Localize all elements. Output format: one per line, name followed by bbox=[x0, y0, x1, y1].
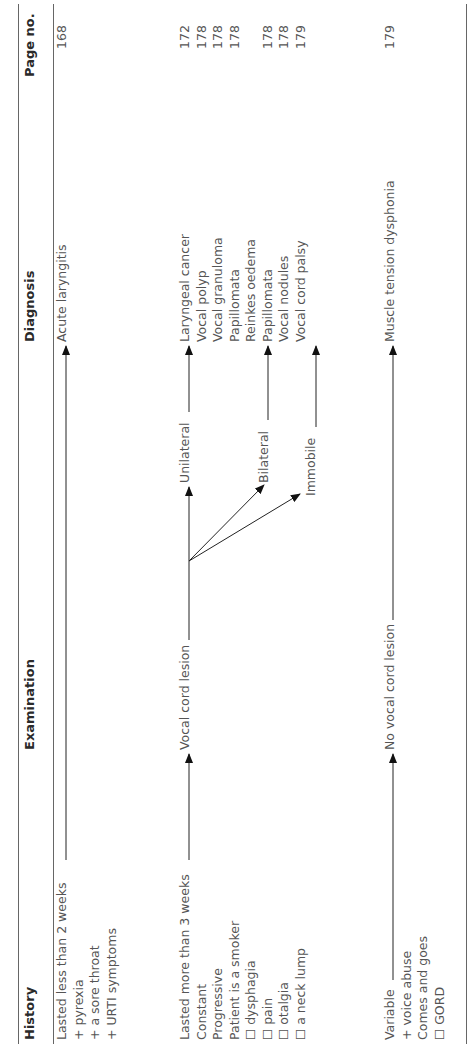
diagnostic-flowchart-table: History Examination Diagnosis Page no. L… bbox=[0, 0, 471, 1052]
flow-arrows bbox=[0, 0, 471, 1052]
